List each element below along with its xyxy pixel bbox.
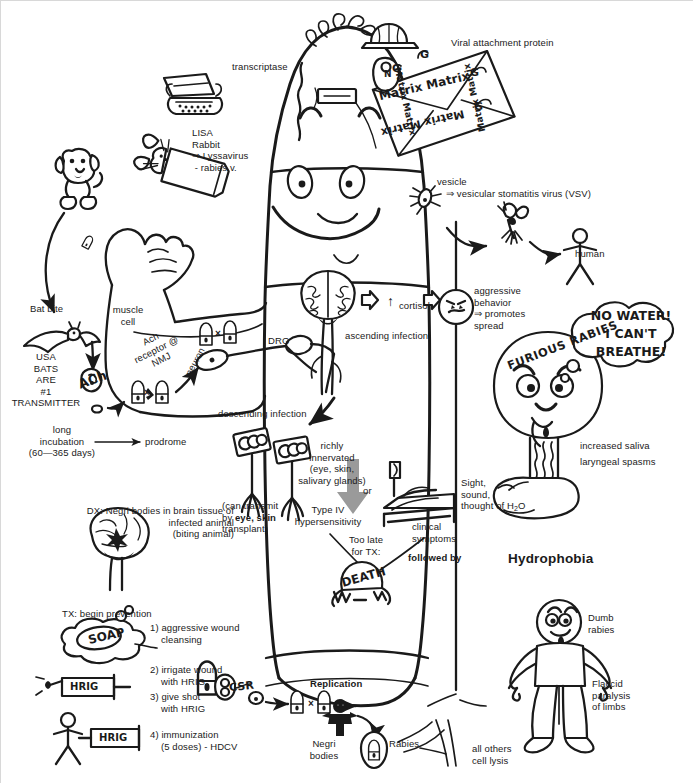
rabies-mnemonic-diagram: .s{fill:none;stroke:#1a1a1a;stroke-linec… <box>0 0 693 783</box>
label-hydrophobia: Hydrophobia <box>508 551 593 567</box>
label-descending-infection: descending infection <box>218 408 307 420</box>
label-hrig-syringe-1: HRIG <box>70 681 98 693</box>
label-aggressive-behavior: aggressive behavior ⇒ promotes spread <box>474 285 525 331</box>
label-g-spike-1: G <box>392 62 401 75</box>
label-tx-step-2: 2) irrigate wound with HRIG <box>150 664 222 687</box>
label-dumb-rabies: Dumb rabies <box>588 612 614 635</box>
label-muscle-cell: muscle cell <box>106 304 150 327</box>
label-hrig-syringe-2: HRIG <box>99 732 127 744</box>
label-vsv: ⇒ vesicular stomatitis virus (VSV) <box>446 188 591 200</box>
label-followed-by: followed by <box>408 552 461 564</box>
label-sight-sound-water: Sight, sound, thought of H2O <box>461 477 525 514</box>
label-g-spike-4: G <box>474 100 483 113</box>
label-tx-step-4: 4) immunization (5 doses) - HDCV <box>150 729 238 752</box>
label-lisa-rabbit: LISA Rabbit ⇒ Lyssavirus - rabies v. <box>192 127 248 173</box>
label-vesicle: vesicle <box>437 176 467 188</box>
label-replication: Replication <box>310 678 362 690</box>
diagram-artwork: .s{fill:none;stroke:#1a1a1a;stroke-linec… <box>0 0 693 783</box>
label-flaccid-paralysis: Flaccid paralysis of limbs <box>592 678 630 713</box>
label-long-incubation: long incubation (60—365 days) <box>24 424 100 459</box>
label-tx-begin-prevention: TX: begin prevention <box>62 608 152 620</box>
label-g-spike-3: G <box>470 66 479 79</box>
label-type-iv-hypersensitivity: Type IV hypersensitivity <box>283 504 373 527</box>
label-rabies: Rabies <box>389 738 419 750</box>
label-laryngeal-spasms: laryngeal spasms <box>580 456 656 468</box>
label-transcriptase: transcriptase <box>232 61 288 73</box>
label-cortisol-up-arrow: ↑ <box>387 293 394 310</box>
sight-sound-tail: O <box>518 500 526 511</box>
label-increased-saliva: increased saliva <box>580 440 650 452</box>
label-g-spike-2: G <box>420 48 429 61</box>
label-or: or <box>363 485 372 497</box>
can-transmit-eye-skin: eye, skin <box>235 512 276 523</box>
label-viral-attachment-protein: Viral attachment protein <box>451 37 554 49</box>
label-ascending-infection: ascending infection <box>345 330 428 342</box>
label-clinical-symptoms: clinical symptoms <box>412 521 456 544</box>
label-all-others-cell-lysis: all others cell lysis <box>472 743 512 766</box>
label-too-late-for-tx: Too late for TX: <box>337 534 395 557</box>
label-human: human <box>575 248 605 260</box>
label-tx-step-1: 1) aggressive wound cleansing <box>150 622 240 645</box>
label-cortisol: cortisol <box>399 300 430 312</box>
label-drg: DRG <box>268 335 289 347</box>
label-no-water-bubble: NO WATER! I CAN'T BREATHE! <box>587 307 675 361</box>
label-richly-innervated: richly innervated (eye, skin, salivary g… <box>286 440 378 486</box>
label-bat-bite: Bat bite <box>30 303 63 315</box>
label-n-protein: N <box>384 69 392 80</box>
label-prodrome: prodrome <box>145 436 186 448</box>
label-usa-bats-transmitter: USA BATS ARE #1 TRANSMITTER <box>8 351 84 409</box>
svg-text:×: × <box>144 387 150 398</box>
label-csr: CSR <box>228 679 254 695</box>
sight-sound-main: Sight, sound, thought of H <box>461 477 514 511</box>
svg-text:×: × <box>215 328 221 339</box>
label-dx-negri-bodies: DX: Negri bodies in brain tissue of infe… <box>62 505 234 540</box>
label-negri-bodies: Negri bodies <box>300 738 348 761</box>
label-tx-step-3: 3) give shot with HRIG <box>150 691 205 714</box>
svg-text:×: × <box>308 698 314 709</box>
